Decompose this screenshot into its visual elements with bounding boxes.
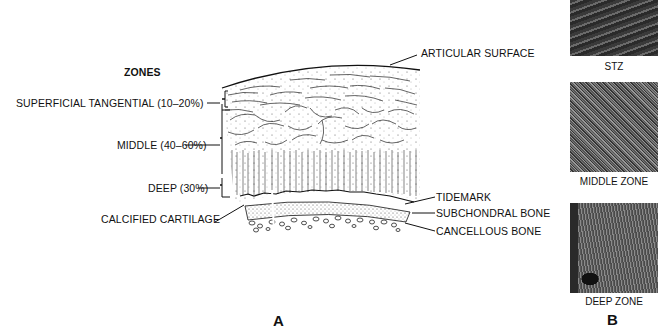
- label-tidemark: TIDEMARK: [436, 191, 491, 203]
- zone-label-superficial: SUPERFICIAL TANGENTIAL (10–20%): [16, 97, 204, 109]
- cancellous-bone: [249, 216, 400, 232]
- label-subchondral-bone: SUBCHONDRAL BONE: [436, 207, 550, 219]
- label-calcified-cartilage: CALCIFIED CARTILAGE: [101, 213, 220, 225]
- cartilage-body: [215, 55, 425, 210]
- panel-letter-a: A: [273, 312, 284, 329]
- zone-label-middle: MIDDLE (40–60%): [117, 139, 207, 151]
- micrograph-stz: [570, 0, 658, 56]
- panel-letter-b: B: [607, 311, 618, 328]
- micrograph-middle-zone: [570, 82, 658, 172]
- caption-middle-zone: MIDDLE ZONE: [564, 176, 664, 187]
- label-cancellous-bone: CANCELLOUS BONE: [436, 225, 541, 237]
- caption-deep-zone: DEEP ZONE: [564, 296, 664, 307]
- label-articular-surface: ARTICULAR SURFACE: [421, 47, 535, 59]
- micrograph-deep-zone: [570, 203, 658, 293]
- zones-heading: ZONES: [124, 66, 161, 78]
- caption-stz: STZ: [564, 61, 664, 72]
- zone-label-deep: DEEP (30%): [148, 182, 208, 194]
